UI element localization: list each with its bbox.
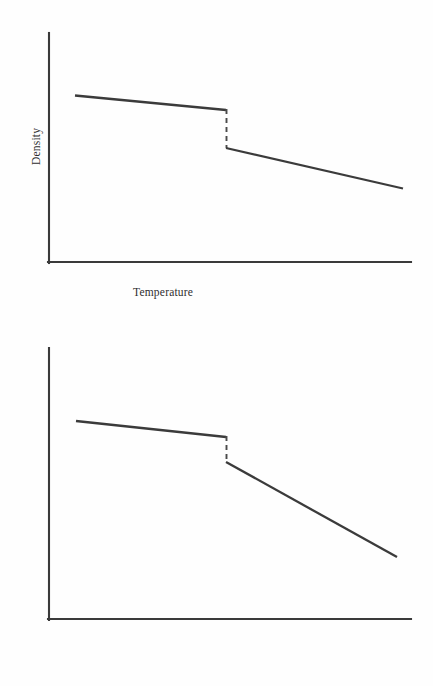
density-x-axis-label: Temperature xyxy=(133,286,193,298)
density-series-high-temp xyxy=(226,148,403,189)
density-plot-canvas xyxy=(0,0,433,343)
tensile-series-high-temp xyxy=(226,462,397,557)
figure-page: Density Temperature Tensile Strength Tem… xyxy=(0,0,433,686)
chart-tensile-strength: Tensile Strength Temperature xyxy=(0,343,433,686)
density-series-low-temp xyxy=(75,96,226,111)
tensile-series-low-temp xyxy=(76,421,226,437)
chart-density: Density Temperature xyxy=(0,0,433,343)
density-y-axis-label: Density xyxy=(30,128,42,165)
tensile-plot-canvas xyxy=(0,343,433,686)
